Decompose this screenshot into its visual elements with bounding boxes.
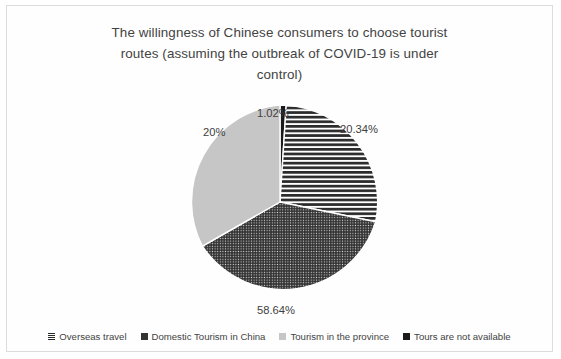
chart-legend: Overseas travel Domestic Tourism in Chin… xyxy=(7,331,552,342)
chart-title-line-2: routes (assuming the outbreak of COVID-1… xyxy=(47,43,512,64)
legend-item-tourism-province[interactable]: Tourism in the province xyxy=(279,331,389,342)
legend-label-overseas-travel: Overseas travel xyxy=(59,331,126,342)
legend-label-tourism-province: Tourism in the province xyxy=(290,331,389,342)
legend-item-domestic-tourism[interactable]: Domestic Tourism in China xyxy=(141,331,266,342)
data-label-tourism-province: 20% xyxy=(203,126,225,138)
legend-swatch-light-gray-icon xyxy=(279,333,286,340)
pie-chart-area xyxy=(7,102,552,307)
chart-title-line-3: control) xyxy=(47,64,512,85)
chart-frame: The willingness of Chinese consumers to … xyxy=(6,5,553,352)
data-label-domestic-tourism: 58.64% xyxy=(257,304,295,316)
chart-title-line-1: The willingness of Chinese consumers to … xyxy=(47,22,512,43)
data-label-tours-not-available: 1.02% xyxy=(257,107,289,119)
legend-label-domestic-tourism: Domestic Tourism in China xyxy=(152,331,266,342)
legend-label-tours-not-available: Tours are not available xyxy=(414,331,511,342)
legend-swatch-striped-icon xyxy=(48,333,55,340)
legend-swatch-dotted-icon xyxy=(141,333,148,340)
chart-title: The willingness of Chinese consumers to … xyxy=(47,22,512,85)
data-label-overseas-travel: 20.34% xyxy=(340,123,378,135)
legend-swatch-black-icon xyxy=(403,333,410,340)
legend-item-overseas-travel[interactable]: Overseas travel xyxy=(48,331,126,342)
legend-item-tours-not-available[interactable]: Tours are not available xyxy=(403,331,511,342)
